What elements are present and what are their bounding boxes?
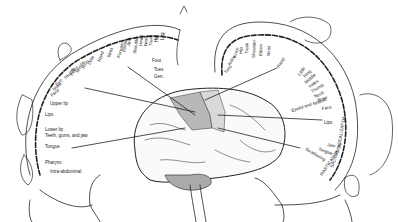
brain-illustration (134, 88, 285, 222)
label-toes: Toes (154, 67, 164, 72)
label-hip-motor: Hip (238, 46, 244, 54)
label-trunk: Trunk (148, 34, 153, 46)
homunculus-diagram: Face Nose Eye Thumb Index Middle Ring Li… (0, 0, 398, 222)
label-eye: Eye (54, 77, 63, 86)
label-lips-motor: Lips (324, 120, 333, 125)
cerebellum (165, 174, 211, 190)
label-hand: Hand (96, 50, 105, 62)
label-tongue: Tongue (45, 144, 60, 149)
label-lips: Lips (45, 112, 54, 117)
label-jaw: Jaw (327, 142, 336, 148)
label-lower-lip: Lower lip (45, 127, 64, 132)
label-intra-abdominal: Intra-abdominal (50, 169, 81, 174)
label-upper-lip: Upper lip (50, 101, 69, 106)
label-face-motor: Face (321, 104, 332, 111)
label-genitals: Gen. (154, 74, 164, 79)
diagram-canvas: Face Nose Eye Thumb Index Middle Ring Li… (0, 0, 398, 222)
label-trunk-motor: Trunk (244, 42, 249, 54)
label-elbow-motor: Elbow (258, 43, 263, 56)
label-hip: Hip (154, 35, 159, 42)
label-leg: Leg (160, 32, 165, 40)
label-foot: Foot (152, 58, 162, 63)
label-shoulder-motor: Shoulder (251, 39, 257, 58)
label-wrist: Wrist (106, 46, 114, 58)
label-arm: Arm (126, 37, 132, 46)
label-little: Little (86, 54, 95, 65)
label-wrist-motor: Wrist (266, 45, 271, 56)
label-teeth-gums-jaw: Teeth, gums, and jaw (45, 133, 88, 138)
label-hand-motor: Hand (276, 56, 287, 68)
label-pharynx: Pharynx (45, 160, 62, 165)
